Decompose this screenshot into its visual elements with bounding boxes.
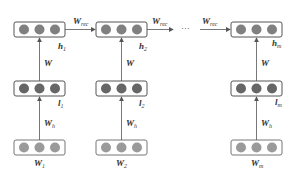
- node: [252, 143, 262, 153]
- hidden-label-1: h1: [58, 41, 66, 52]
- node: [132, 84, 142, 94]
- node: [117, 143, 127, 153]
- node: [132, 143, 142, 153]
- node: [267, 143, 277, 153]
- node: [50, 143, 60, 153]
- node: [50, 84, 60, 94]
- recurrent-label: Wrec: [73, 16, 89, 27]
- node: [19, 84, 29, 94]
- node: [236, 84, 246, 94]
- node: [236, 25, 246, 35]
- intermediate-label-1: l1: [58, 98, 64, 109]
- weight-label-W: W: [261, 58, 270, 68]
- input-label-m: Wm: [251, 158, 264, 169]
- node: [35, 84, 45, 94]
- node: [19, 25, 29, 35]
- weight-label-Wh: Wh: [261, 118, 272, 129]
- weight-label-Wh: Wh: [44, 118, 55, 129]
- node: [19, 143, 29, 153]
- node: [117, 84, 127, 94]
- node: [267, 25, 277, 35]
- node: [132, 25, 142, 35]
- node: [236, 143, 246, 153]
- node: [35, 25, 45, 35]
- node: [252, 25, 262, 35]
- input-label-2: W2: [116, 158, 127, 169]
- weight-label-W: W: [44, 58, 53, 68]
- node: [50, 25, 60, 35]
- node: [101, 143, 111, 153]
- intermediate-label-m: lm: [275, 97, 283, 108]
- hidden-label-2: h2: [139, 41, 147, 52]
- node: [117, 25, 127, 35]
- node: [101, 25, 111, 35]
- rnn-diagram: Wrec Wrec Wrec ··· h1 h2 hm W W W l1 l2 …: [0, 0, 294, 176]
- node: [101, 84, 111, 94]
- node: [35, 143, 45, 153]
- input-label-1: W1: [34, 158, 45, 169]
- node: [267, 84, 277, 94]
- intermediate-label-2: l2: [139, 98, 145, 109]
- weight-label-W: W: [126, 58, 135, 68]
- ellipsis: ···: [181, 23, 190, 33]
- recurrent-label: Wrec: [152, 16, 168, 27]
- node: [252, 84, 262, 94]
- weight-label-Wh: Wh: [126, 118, 137, 129]
- hidden-label-m: hm: [272, 38, 282, 49]
- recurrent-label: Wrec: [202, 16, 218, 27]
